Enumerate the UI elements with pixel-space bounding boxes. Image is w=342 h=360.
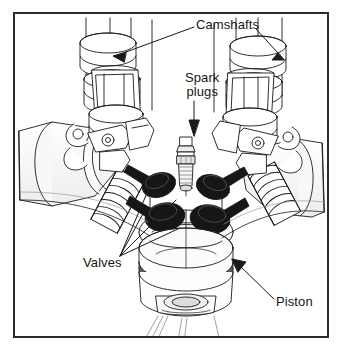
label-piston: Piston: [276, 295, 313, 309]
spark-plug: [177, 137, 195, 196]
label-camshafts: Camshafts: [196, 18, 259, 32]
label-spark-plugs-line1: Spark: [185, 70, 219, 85]
piston: [139, 228, 233, 352]
leader-piston: [240, 266, 274, 299]
label-spark-plugs-line2: plugs: [186, 84, 218, 99]
label-valves: Valves: [83, 256, 122, 270]
figure-page: Camshafts Sparkplugs Valves Piston: [0, 0, 342, 360]
label-spark-plugs: Sparkplugs: [185, 71, 219, 99]
valve-head: [193, 167, 248, 204]
leader-camshafts-left: [126, 27, 194, 52]
